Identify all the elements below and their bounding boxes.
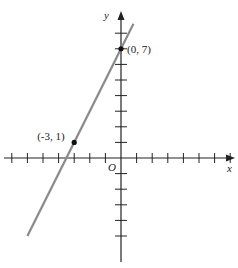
y-axis-arrow-icon	[118, 11, 125, 20]
origin-label: O	[108, 161, 116, 173]
x-axis-label: x	[226, 162, 232, 174]
data-point	[72, 140, 77, 145]
coordinate-plane: (-3, 1)(0, 7) x y O	[0, 0, 238, 268]
data-points: (-3, 1)(0, 7)	[37, 43, 151, 145]
data-point	[118, 46, 123, 51]
point-label: (0, 7)	[127, 43, 151, 56]
y-axis-label: y	[103, 9, 109, 21]
point-label: (-3, 1)	[37, 130, 65, 143]
